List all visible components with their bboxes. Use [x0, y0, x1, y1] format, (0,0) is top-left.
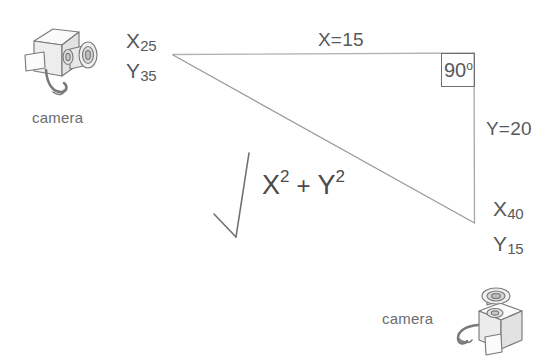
degree-icon: o [466, 59, 473, 73]
triangle-top-side [173, 53, 474, 55]
formula-term-2: Y [318, 170, 336, 200]
segment-label-top: X=15 [318, 30, 364, 49]
pythagoras-formula: X2+Y2 [262, 168, 345, 199]
camera-caption-top: camera [32, 110, 83, 125]
formula-term-1: X [262, 170, 280, 200]
vertex-label-bottom-right-x: X40 [493, 198, 524, 221]
square-root-sign-icon [214, 153, 249, 237]
vertex-label-top-left-x: X25 [126, 30, 157, 53]
camera-icon-top [25, 29, 97, 94]
vertex-top-left-x-letter: X [126, 29, 140, 52]
vertex-label-bottom-right-y: Y15 [493, 233, 524, 256]
vertex-label-top-left-y: Y35 [126, 60, 157, 83]
vertex-bottom-right-x-value: 40 [507, 205, 523, 222]
vertex-bottom-right-y-letter: Y [493, 232, 507, 255]
vertex-bottom-right-y-value: 15 [507, 240, 523, 257]
right-angle-value: 90 [444, 59, 466, 81]
camera-caption-bottom: camera [382, 311, 433, 326]
right-angle-label: 90o [444, 60, 473, 80]
formula-exponent-2: 2 [336, 167, 345, 186]
vertex-top-left-x-value: 25 [140, 37, 156, 54]
segment-label-right: Y=20 [486, 119, 532, 138]
vertex-top-left-y-letter: Y [126, 59, 140, 82]
diagram-canvas: X25 Y35 X40 Y15 X=15 Y=20 90o X2+Y2 came… [0, 0, 554, 363]
vertex-bottom-right-x-letter: X [493, 197, 507, 220]
formula-operator: + [289, 172, 317, 199]
vertex-top-left-y-value: 35 [140, 67, 156, 84]
camera-icon-bottom [458, 288, 522, 355]
